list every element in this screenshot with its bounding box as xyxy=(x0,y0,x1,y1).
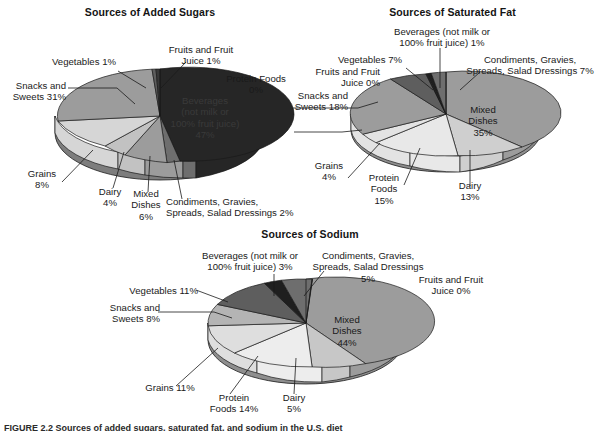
label-protein-na: Protein Foods 14% xyxy=(198,392,270,415)
label-grains-sf: Grains 4% xyxy=(306,160,352,183)
label-vegetables-sf: Vegetables 7% xyxy=(290,54,402,65)
label-dairy-na: Dairy 5% xyxy=(270,392,318,415)
label-beverages-inner-as: Beverages (not milk or 100% fruit juice)… xyxy=(160,95,250,141)
label-fruits-sf: Fruits and Fruit Juice 0% xyxy=(276,66,380,89)
leader-vegetables-na xyxy=(196,290,228,302)
figure-container: Sources of Added Sugars xyxy=(0,0,605,431)
label-mixed-inner-na: Mixed Dishes 44% xyxy=(312,314,382,348)
label-beverages-sf: Beverages (not milk or 100% fruit juice)… xyxy=(362,26,522,49)
slice-snacks-sweets xyxy=(57,69,160,121)
label-vegetables-na: Vegetables 11% xyxy=(100,285,198,296)
label-dairy-sf: Dairy 13% xyxy=(446,180,494,203)
chart-sodium: Sources of Sodium xyxy=(110,228,510,431)
label-mixed-dishes-as: Mixed Dishes 6% xyxy=(122,188,170,222)
chart-added-sugars: Sources of Added Sugars xyxy=(0,0,300,230)
label-protein-sf: Protein Foods 15% xyxy=(358,172,410,206)
leader-grains-na xyxy=(176,348,218,386)
label-snacks-na: Snacks and Sweets 8% xyxy=(68,302,160,325)
label-snacks-as: Snacks and Sweets 31% xyxy=(0,80,66,103)
chart-saturated-fat: Sources of Saturated Fat xyxy=(300,0,605,230)
label-mixed-inner-sf: Mixed Dishes 35% xyxy=(448,104,518,138)
label-fruits-na: Fruits and Fruit Juice 0% xyxy=(400,274,502,297)
label-vegetables-as: Vegetables 1% xyxy=(28,56,116,67)
pie-side-wall-condiments xyxy=(183,161,196,178)
figure-caption: FIGURE 2.2 Sources of added sugars, satu… xyxy=(4,423,601,431)
label-fruits-as: Fruits and Fruit Juice 1% xyxy=(155,44,247,67)
label-grains-as: Grains 8% xyxy=(20,168,64,191)
label-condiments-sf: Condiments, Gravies, Spreads, Salad Dres… xyxy=(450,54,605,77)
label-snacks-sf: Snacks and Sweets 18% xyxy=(238,90,348,113)
label-condiments-as: Condiments, Gravies, Spreads, Salad Dres… xyxy=(166,196,306,219)
